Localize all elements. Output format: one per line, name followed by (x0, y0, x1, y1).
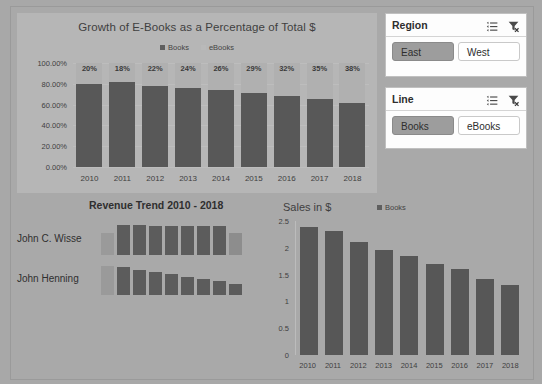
sales-chart-x-tick: 2016 (451, 361, 469, 370)
growth-chart-data-label: 24% (175, 64, 201, 73)
growth-chart-x-axis: 201020112012201320142015201620172018 (73, 169, 369, 187)
sparkline-bar (181, 277, 194, 295)
growth-chart-title: Growth of E-Books as a Percentage of Tot… (17, 21, 377, 33)
sales-chart-y-tick: 1.5 (279, 270, 289, 279)
sales-chart-x-tick: 2017 (476, 361, 494, 370)
slicer-line-item-ebooks[interactable]: eBooks (458, 116, 520, 135)
growth-chart-x-tick: 2013 (175, 174, 201, 183)
growth-chart-bar-column: 32% (274, 63, 300, 167)
slicer-line-items: Books eBooks (386, 111, 526, 140)
sales-chart-bar (451, 269, 469, 355)
growth-chart-x-tick: 2014 (208, 174, 234, 183)
sales-chart-bar (476, 279, 494, 355)
growth-chart-data-label: 29% (241, 64, 267, 73)
multi-select-icon[interactable] (486, 93, 499, 106)
growth-chart-data-label: 22% (142, 64, 168, 73)
sparkline-label-wisse: John C. Wisse (17, 233, 101, 244)
sales-chart-bar (426, 264, 444, 355)
legend-label-books: Books (385, 203, 406, 212)
sparkline-bar (101, 266, 114, 295)
growth-chart-data-label: 26% (208, 64, 234, 73)
growth-chart-x-tick: 2016 (274, 174, 300, 183)
growth-chart-panel[interactable]: Growth of E-Books as a Percentage of Tot… (17, 13, 377, 193)
sparkline-bars-henning (101, 261, 267, 295)
growth-chart-y-tick: 100.00% (37, 59, 67, 68)
dashboard-canvas: Growth of E-Books as a Percentage of Tot… (10, 6, 534, 380)
sparkline-bar (165, 226, 178, 255)
slicer-region-title: Region (392, 19, 486, 31)
sales-chart-x-tick: 2010 (299, 361, 317, 370)
growth-chart-legend: Books eBooks (17, 43, 377, 52)
sales-chart-x-tick: 2012 (349, 361, 367, 370)
sparkline-bar (181, 226, 194, 255)
sparkline-bar (133, 225, 146, 255)
sparkline-row: John Henning (17, 261, 267, 295)
growth-chart-plot-area: 20%18%22%24%26%29%32%35%38% (73, 63, 369, 167)
sparkline-bar (229, 284, 242, 295)
sales-chart-bar (350, 242, 368, 355)
growth-chart-data-label: 38% (339, 64, 365, 73)
growth-chart-segment-books (175, 88, 201, 167)
growth-chart-segment-books (142, 86, 168, 167)
sparkline-bar (213, 281, 226, 295)
multi-select-icon[interactable] (486, 19, 499, 32)
sparkline-bar (197, 226, 210, 255)
sparkline-bar (133, 270, 146, 295)
growth-chart-x-tick: 2018 (339, 174, 365, 183)
slicer-region-items: East West (386, 37, 526, 66)
legend-entry-books: Books (160, 43, 189, 52)
growth-chart-segment-ebooks: 35% (307, 63, 333, 99)
sales-chart-plot-area (295, 221, 523, 355)
slicer-region[interactable]: Region (385, 13, 527, 77)
growth-chart-data-label: 18% (109, 64, 135, 73)
growth-chart-bar-column: 22% (142, 63, 168, 167)
growth-chart-segment-ebooks: 29% (241, 63, 267, 93)
growth-chart-gridline (73, 167, 369, 168)
slicer-line-header: Line (386, 88, 526, 111)
growth-chart-data-label: 20% (76, 64, 102, 73)
growth-chart-y-tick: 60.00% (42, 100, 67, 109)
sales-chart-bar (375, 250, 393, 355)
sparkline-row: John C. Wisse (17, 221, 267, 255)
slicer-region-header: Region (386, 14, 526, 37)
legend-label-books: Books (168, 43, 189, 52)
growth-chart-segment-books (274, 96, 300, 167)
growth-chart-segment-ebooks: 22% (142, 63, 168, 86)
sales-chart-bar (300, 227, 318, 355)
slicer-region-icons (486, 19, 520, 32)
revenue-trend-title: Revenue Trend 2010 - 2018 (89, 199, 223, 211)
sparkline-bar (213, 226, 226, 255)
slicer-line-icons (486, 93, 520, 106)
slicer-line[interactable]: Line (385, 87, 527, 149)
slicer-region-item-east[interactable]: East (392, 42, 454, 61)
sales-chart-y-tick: 0.5 (279, 324, 289, 333)
revenue-trend-panel[interactable]: Revenue Trend 2010 - 2018 John C. Wisse … (17, 199, 267, 309)
growth-chart-segment-books (241, 93, 267, 167)
growth-chart-x-tick: 2012 (142, 174, 168, 183)
slicer-line-item-books[interactable]: Books (392, 116, 454, 135)
growth-chart-data-label: 35% (307, 64, 333, 73)
legend-swatch-ebooks (201, 45, 206, 50)
clear-filter-icon[interactable] (507, 19, 520, 32)
growth-chart-bar-column: 29% (241, 63, 267, 167)
sparkline-bar (117, 267, 130, 295)
sales-chart-bar (501, 285, 519, 355)
growth-chart-segment-books (307, 99, 333, 167)
sales-chart-title: Sales in $ (283, 201, 331, 213)
growth-chart-segment-books (76, 84, 102, 167)
growth-chart-bar-column: 38% (339, 63, 365, 167)
sales-chart-y-tick: 2 (285, 243, 289, 252)
sparkline-bar (101, 233, 114, 255)
clear-filter-icon[interactable] (507, 93, 520, 106)
growth-chart-bar-column: 20% (76, 63, 102, 167)
sales-chart-x-tick: 2018 (501, 361, 519, 370)
slicer-region-item-west[interactable]: West (458, 42, 520, 61)
sales-chart-y-axis: 2.521.510.50 (269, 221, 293, 355)
growth-chart-x-tick: 2010 (76, 174, 102, 183)
sales-chart-x-tick: 2013 (375, 361, 393, 370)
growth-chart-segment-ebooks: 20% (76, 63, 102, 84)
sales-chart-y-tick: 0 (285, 351, 289, 360)
sales-chart-panel[interactable]: Sales in $ Books 2.521.510.50 2010201120… (269, 199, 527, 377)
growth-chart-segment-books (109, 82, 135, 167)
growth-chart-bars: 20%18%22%24%26%29%32%35%38% (73, 63, 369, 167)
